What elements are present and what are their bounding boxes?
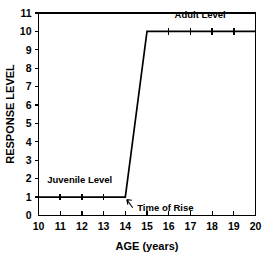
x-tick-label-19: 19 — [228, 220, 240, 232]
x-tick-label-17: 17 — [185, 220, 197, 232]
y-tick-label-2: 2 — [26, 172, 32, 184]
chart-figure: 01234567891011 1011121314151617181920 Ju… — [0, 0, 274, 256]
y-tick-label-5: 5 — [26, 117, 32, 129]
annotation-adult-level: Adult Level — [175, 9, 226, 20]
x-tick-label-12: 12 — [76, 220, 88, 232]
x-tick-label-18: 18 — [206, 220, 218, 232]
y-axis-title: RESPONSE LEVEL — [4, 64, 16, 164]
chart-background — [0, 0, 274, 256]
y-tick-label-3: 3 — [26, 154, 32, 166]
y-tick-label-8: 8 — [26, 62, 32, 74]
y-tick-label-4: 4 — [26, 136, 32, 148]
y-tick-label-0: 0 — [26, 209, 32, 221]
annotation-time-of-rise-group: Time of Rise — [127, 200, 194, 213]
x-tick-label-20: 20 — [250, 220, 262, 232]
y-tick-label-6: 6 — [26, 99, 32, 111]
y-tick-label-7: 7 — [26, 80, 32, 92]
y-tick-label-11: 11 — [20, 7, 31, 19]
x-tick-label-13: 13 — [98, 220, 110, 232]
annotation-juvenile-level: Juvenile Level — [47, 174, 112, 185]
y-tick-label-1: 1 — [26, 191, 32, 203]
x-tick-label-16: 16 — [163, 220, 175, 232]
x-tick-label-10: 10 — [33, 220, 45, 232]
annotation-time-of-rise: Time of Rise — [137, 202, 193, 213]
response-level-vs-age-chart: 01234567891011 1011121314151617181920 Ju… — [0, 0, 274, 256]
x-axis-title: AGE (years) — [116, 240, 179, 252]
x-tick-label-14: 14 — [119, 220, 131, 232]
x-tick-label-11: 11 — [55, 220, 66, 232]
x-tick-label-15: 15 — [141, 220, 153, 232]
y-tick-label-10: 10 — [20, 25, 32, 37]
y-tick-label-9: 9 — [26, 44, 32, 56]
